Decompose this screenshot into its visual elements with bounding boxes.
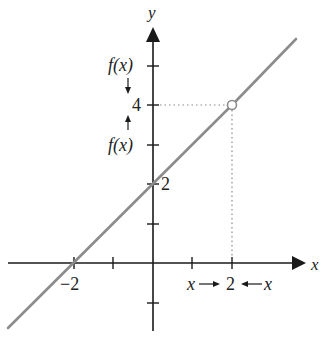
down-arrow-icon [125, 78, 131, 94]
right-arrow-icon [199, 281, 220, 287]
guide-lines [160, 105, 232, 257]
x-axis-label: x [310, 255, 319, 274]
y-tick-label-2: 2 [161, 174, 170, 194]
x-tick-label-neg2: −2 [60, 274, 79, 294]
left-arrow-icon [241, 281, 262, 287]
open-circle-hole [228, 101, 237, 110]
y-tick-label-4: 4 [132, 95, 141, 115]
x-tick-label-2: 2 [226, 274, 235, 294]
x-label-left: x [186, 274, 195, 294]
x-axis [8, 256, 306, 270]
limit-diagram: x y −2 2 2 4 f(x) f [0, 0, 328, 339]
fx-label-lower: f(x) [108, 135, 133, 156]
up-arrow-icon [125, 115, 131, 130]
y-axis-arrow-icon [146, 27, 160, 42]
y-axis-label: y [146, 3, 156, 22]
x-axis-arrow-icon [292, 256, 306, 270]
fx-label-upper: f(x) [108, 55, 133, 76]
x-label-right: x [263, 274, 272, 294]
function-line-upper [236, 39, 296, 101]
